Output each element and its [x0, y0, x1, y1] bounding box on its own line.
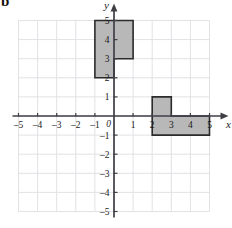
- x-tick-label-5: 5: [207, 120, 212, 130]
- y-tick-label-1: 1: [105, 92, 110, 102]
- y-tick-label--4: –4: [99, 188, 110, 198]
- y-tick-label--5: –5: [99, 207, 110, 217]
- y-axis-label: y: [103, 0, 109, 11]
- y-tick-label--2: –2: [99, 150, 110, 160]
- coordinate-plane-figure: b –5–4–3–2–11234554321–1–2–3–4–50 yx: [0, 0, 232, 228]
- x-tick-label-2: 2: [150, 120, 155, 130]
- y-tick-label-2: 2: [105, 73, 110, 83]
- y-tick-label--3: –3: [99, 169, 110, 179]
- y-tick-label-5: 5: [105, 16, 110, 26]
- y-tick-label-4: 4: [105, 35, 110, 45]
- y-tick-label-3: 3: [105, 54, 110, 64]
- x-tick-label-4: 4: [188, 120, 193, 130]
- x-tick-label--1: –1: [89, 120, 100, 130]
- x-tick-label--2: –2: [70, 120, 81, 130]
- x-tick-label-1: 1: [131, 120, 136, 130]
- coordinate-grid-svg: –5–4–3–2–11234554321–1–2–3–4–50 yx: [0, 0, 232, 228]
- x-axis-label: x: [225, 118, 231, 130]
- origin-label: 0: [106, 119, 111, 129]
- y-tick-label--1: –1: [99, 131, 110, 141]
- x-tick-label--4: –4: [32, 120, 43, 130]
- x-tick-label-3: 3: [169, 120, 174, 130]
- x-tick-label--5: –5: [13, 120, 24, 130]
- y-axis-arrowhead: [111, 4, 118, 12]
- x-tick-label--3: –3: [51, 120, 62, 130]
